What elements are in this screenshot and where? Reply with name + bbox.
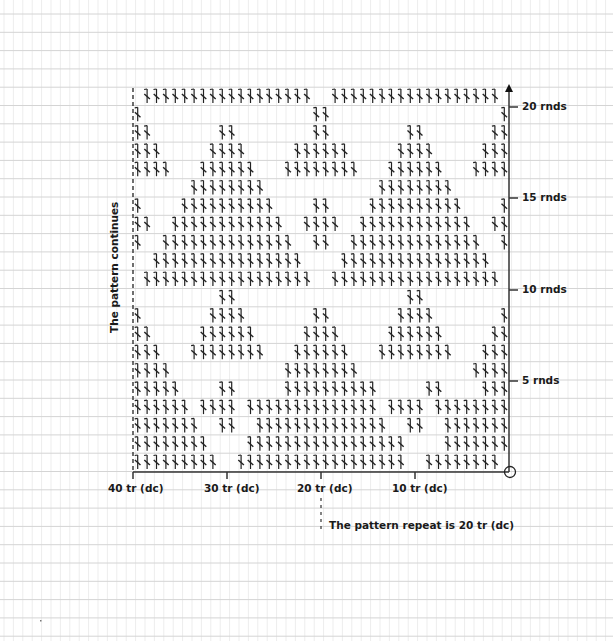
- stitch-row: [135, 382, 507, 396]
- stitch-symbols: [135, 89, 507, 469]
- y-tick-label-20: 20 rnds: [522, 100, 567, 112]
- speck-mark: [40, 620, 42, 622]
- x-tick-label-40: 40 tr (dc): [108, 482, 163, 494]
- stitch-row: [135, 309, 507, 323]
- stitch-row: [135, 364, 507, 378]
- x-tick-label-30: 30 tr (dc): [204, 482, 259, 494]
- pattern-continues-note: The pattern continues: [108, 202, 120, 333]
- stitch-row: [135, 199, 507, 213]
- stitch-row: [135, 217, 507, 231]
- stitch-row: [135, 144, 507, 158]
- stitch-row: [135, 107, 507, 121]
- stitch-row: [154, 254, 489, 268]
- y-tick-label-10: 10 rnds: [522, 283, 567, 295]
- stitch-row: [135, 235, 507, 249]
- stitch-row: [135, 418, 507, 432]
- stitch-row: [135, 437, 507, 451]
- stitch-row: [144, 272, 498, 286]
- stitch-row: [135, 126, 507, 140]
- stitch-row: [219, 290, 422, 304]
- crochet-chart-canvas: [0, 0, 613, 641]
- stitch-row: [135, 455, 498, 469]
- stitch-row: [135, 400, 507, 414]
- stitch-row: [135, 162, 507, 176]
- stitch-row: [144, 89, 498, 103]
- y-tick-label-5: 5 rnds: [522, 374, 559, 386]
- pattern-repeat-note: The pattern repeat is 20 tr (dc): [329, 519, 514, 531]
- y-tick-label-15: 15 rnds: [522, 191, 567, 203]
- stitch-row: [135, 327, 507, 341]
- x-tick-label-10: 10 tr (dc): [392, 482, 447, 494]
- stitch-row: [135, 345, 507, 359]
- x-tick-label-20: 20 tr (dc): [297, 482, 352, 494]
